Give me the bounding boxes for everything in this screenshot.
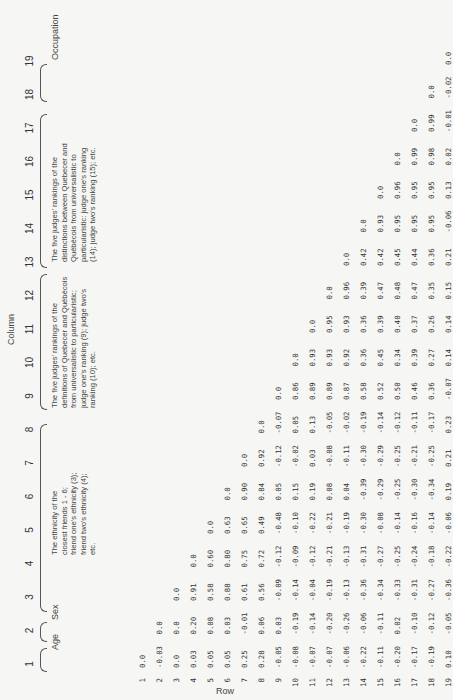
matrix-cell: 0.72 <box>257 550 266 568</box>
row-label: 17 <box>410 678 419 700</box>
matrix-cell: 0.99 <box>410 148 419 166</box>
matrix-cell: -0.06 <box>444 211 453 233</box>
matrix-cell: -0.03 <box>155 646 164 668</box>
matrix-cell: 0.0 <box>172 655 181 668</box>
matrix-cell: 0.37 <box>410 315 419 333</box>
matrix-cell: -0.33 <box>393 579 402 601</box>
matrix-cell: -0.21 <box>410 445 419 467</box>
matrix-cell: 0.20 <box>189 617 198 635</box>
matrix-cell: 0.27 <box>427 349 436 367</box>
matrix-cell: 0.93 <box>342 315 351 333</box>
matrix-cell: -0.02 <box>342 412 351 434</box>
matrix-cell: 0.19 <box>444 483 453 501</box>
row-label: 12 <box>325 678 334 700</box>
matrix-cell: -0.09 <box>291 546 300 568</box>
matrix-cell: -0.17 <box>410 646 419 668</box>
matrix-cell: 0.93 <box>376 215 385 233</box>
matrix-cell: -0.14 <box>308 613 317 635</box>
matrix-cell: 0.95 <box>427 181 436 199</box>
matrix-cell: 0.35 <box>427 282 436 300</box>
matrix-cell: -0.01 <box>444 110 453 132</box>
matrix-cell: -0.16 <box>410 512 419 534</box>
matrix-cell: -0.12 <box>393 412 402 434</box>
matrix-cell: -0.39 <box>359 479 368 501</box>
matrix-cell: 0.95 <box>393 215 402 233</box>
matrix-cell: 0.47 <box>376 282 385 300</box>
matrix-cell: 0.42 <box>359 248 368 266</box>
matrix-cell: 0.15 <box>291 483 300 501</box>
matrix-cell: 0.47 <box>410 282 419 300</box>
matrix-cell: -0.29 <box>376 479 385 501</box>
matrix-cell: 0.45 <box>393 248 402 266</box>
matrix-cell: -0.10 <box>410 613 419 635</box>
matrix-cell: -0.02 <box>291 445 300 467</box>
matrix-cell: -0.17 <box>427 412 436 434</box>
matrix-cell: 0.0 <box>206 521 215 534</box>
matrix-cell: -0.12 <box>427 613 436 635</box>
matrix-cell: -0.07 <box>308 646 317 668</box>
matrix-cell: 0.25 <box>240 650 249 668</box>
matrix-cell: 0.0 <box>257 420 266 433</box>
matrix-cell: 0.0 <box>376 186 385 199</box>
matrix-cell: 0.56 <box>257 583 266 601</box>
row-label: 8 <box>257 678 266 700</box>
matrix-cell: -0.06 <box>444 512 453 534</box>
matrix-cell: 0.0 <box>240 454 249 467</box>
matrix-cell: -0.08 <box>291 646 300 668</box>
matrix-cell: 0.0 <box>410 119 419 132</box>
matrix-cell: -0.22 <box>308 512 317 534</box>
matrix-cell: 0.93 <box>308 349 317 367</box>
matrix-cell: 0.0 <box>308 320 317 333</box>
matrix-cell: -0.21 <box>325 512 334 534</box>
matrix-cell: -0.12 <box>308 546 317 568</box>
matrix-cell: 0.03 <box>223 617 232 635</box>
row-label: 15 <box>376 678 385 700</box>
row-label: 4 <box>189 678 198 700</box>
matrix-cell: -0.19 <box>342 512 351 534</box>
matrix-cell: -0.27 <box>427 579 436 601</box>
matrix-cell: 0.36 <box>359 349 368 367</box>
matrix-cell: 0.98 <box>427 148 436 166</box>
matrix-cell: 0.03 <box>308 449 317 467</box>
matrix-cell: 0.0 <box>223 487 232 500</box>
matrix-cell: 0.42 <box>376 248 385 266</box>
matrix-cell: -0.12 <box>274 546 283 568</box>
matrix-cell: 0.93 <box>325 349 334 367</box>
matrix-cell: 0.21 <box>444 248 453 266</box>
matrix-cell: 0.05 <box>274 483 283 501</box>
matrix-cell: 0.26 <box>427 315 436 333</box>
matrix-cell: -0.19 <box>359 412 368 434</box>
matrix-cell: -0.27 <box>376 546 385 568</box>
matrix-cell: -0.14 <box>393 512 402 534</box>
matrix-cell: 0.08 <box>325 483 334 501</box>
matrix-cell: 0.80 <box>223 550 232 568</box>
matrix-cell: 0.15 <box>444 282 453 300</box>
matrix-cell: 0.05 <box>206 650 215 668</box>
matrix-cell: -0.05 <box>325 412 334 434</box>
matrix-cell: 0.0 <box>172 588 181 601</box>
matrix-cell: -0.34 <box>427 479 436 501</box>
matrix-cell: -0.48 <box>274 512 283 534</box>
matrix-cell: -0.21 <box>325 546 334 568</box>
matrix-cell: 0.44 <box>410 248 419 266</box>
matrix-cell: 0.13 <box>444 181 453 199</box>
matrix-cell: -0.10 <box>291 512 300 534</box>
matrix-cell: -0.30 <box>410 479 419 501</box>
row-label: 7 <box>240 678 249 700</box>
matrix-cell: 0.90 <box>240 483 249 501</box>
row-label: 16 <box>393 678 402 700</box>
matrix-cell: 0.39 <box>410 349 419 367</box>
matrix-cell: 0.0 <box>325 286 334 299</box>
matrix-cell: 0.0 <box>189 554 198 567</box>
matrix-cell: -0.19 <box>291 613 300 635</box>
matrix-cell: 0.05 <box>223 650 232 668</box>
matrix-cell: 0.89 <box>308 382 317 400</box>
row-label: 1 <box>138 678 147 700</box>
matrix-cell: -0.05 <box>444 613 453 635</box>
row-label: 2 <box>155 678 164 700</box>
matrix-cell: 0.13 <box>308 416 317 434</box>
matrix-cell: -0.36 <box>359 579 368 601</box>
matrix-cell: -0.06 <box>359 613 368 635</box>
matrix-cell: 0.46 <box>410 382 419 400</box>
